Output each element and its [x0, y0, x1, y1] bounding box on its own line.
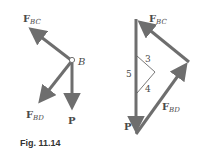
- fbd-label: FBD: [26, 109, 44, 122]
- slope-side-5: 5: [126, 69, 132, 79]
- triangle-fbd-label: FBD: [162, 101, 180, 114]
- point-b: [69, 57, 74, 62]
- free-body-diagram: B FBC FBD P: [23, 13, 85, 126]
- point-b-label: B: [77, 56, 85, 67]
- p-label: P: [68, 115, 76, 126]
- force-triangle: FBC FBD P 5 3 4: [124, 13, 189, 134]
- triangle-fbc-label: FBC: [149, 13, 167, 26]
- figure-caption: Fig. 11.14: [20, 138, 61, 148]
- slope-side-4: 4: [145, 84, 151, 94]
- force-fbd-arrow: [41, 62, 71, 100]
- figure-11-14: B FBC FBD P FBC FBD P 5 3 4 Fig. 11.14: [0, 0, 201, 156]
- force-fbc-arrow: [32, 30, 71, 60]
- triangle-fbd-arrow: [136, 66, 185, 134]
- triangle-p-label: P: [124, 121, 132, 132]
- slope-side-3: 3: [145, 54, 151, 64]
- fbc-label: FBC: [23, 13, 41, 26]
